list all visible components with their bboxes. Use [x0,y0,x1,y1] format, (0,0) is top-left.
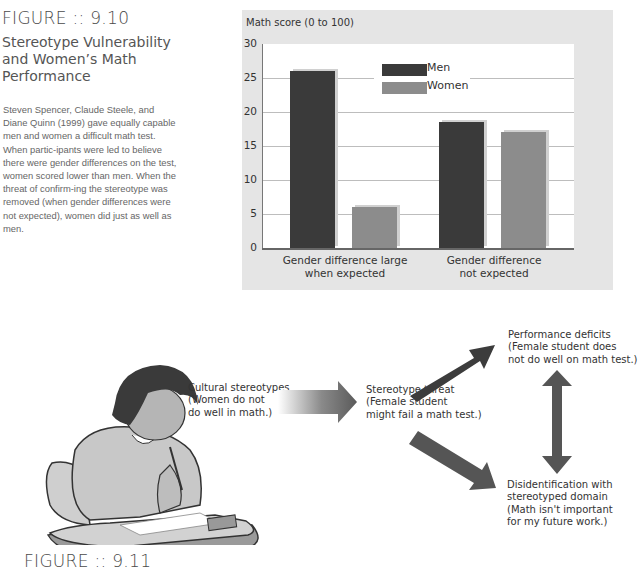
y-tick-label: 0 [237,241,257,253]
bar-men-2[interactable] [439,122,484,248]
category-line: Gender difference [404,254,584,267]
node-performance-line: not do well on math test.) [508,354,638,366]
node-threat-line: (Female student [366,396,482,408]
bar-men-1[interactable] [290,71,335,248]
legend-label-men: Men [427,61,450,74]
legend-label-women: Women [427,79,468,92]
y-tick-label: 5 [237,207,257,219]
x-axis [262,248,574,250]
figure-9-10-title: Stereotype Vulnerability and Women’s Mat… [2,34,172,85]
legend-swatch-women [382,82,427,94]
node-cultural-line: do well in math.) [188,407,290,419]
y-axis-label: Math score (0 to 100) [246,17,354,28]
y-tick-label: 10 [237,173,257,185]
node-performance-title: Performance deficits [508,329,638,341]
category-line: not expected [404,267,584,280]
y-tick-label: 15 [237,139,257,151]
node-disid-title: Disidentification with [507,479,613,491]
y-axis [262,44,263,248]
node-performance-deficits: Performance deficits (Female student doe… [508,329,638,366]
node-threat-line: might fail a math test.) [366,409,482,421]
arrow-performance-disidentification [542,370,572,474]
node-disid-line: for my future work.) [507,516,613,528]
node-performance-line: (Female student does [508,341,638,353]
bar-women-1[interactable] [352,207,397,248]
figure-9-10-label: FIGURE :: 9.10 [2,8,129,28]
node-disidentification: Disidentification with stereotyped domai… [507,479,613,528]
y-tick-label: 30 [237,37,257,49]
node-threat-title: Stereotype threat [366,384,482,396]
figure-9-10-caption: Steven Spencer, Claude Steele, and Diane… [3,103,178,235]
node-disid-line: (Math isn't important [507,504,613,516]
bar-women-2[interactable] [501,132,546,248]
y-tick-label: 20 [237,105,257,117]
arrow-threat-to-disidentification [409,431,496,490]
node-stereotype-threat: Stereotype threat (Female student might … [366,384,482,421]
x-category-label: Gender differencenot expected [404,254,584,279]
y-tick-label: 25 [237,71,257,83]
node-disid-line: stereotyped domain [507,491,613,503]
node-cultural-stereotypes: Cultural stereotypes (Women do not do we… [188,382,290,419]
node-cultural-title: Cultural stereotypes [188,382,290,394]
arrow-cultural-to-threat [278,381,357,423]
node-cultural-line: (Women do not [188,394,290,406]
figure-9-11-label: FIGURE :: 9.11 [24,551,151,571]
legend-swatch-men [382,64,427,76]
